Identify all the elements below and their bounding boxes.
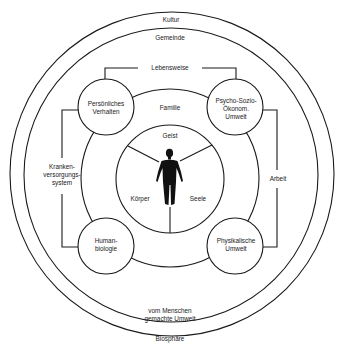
node-label-tl-1: Persönliches (88, 100, 125, 107)
connector-arbeit-top (263, 110, 277, 170)
node-label-br-1: Physikalische (217, 237, 256, 245)
connector-arbeit-bottom (263, 188, 277, 247)
label-gemeinde: Gemeinde (155, 34, 185, 41)
human-figure-icon (156, 149, 183, 205)
node-persoenliches-verhalten (78, 79, 134, 135)
label-arbeit: Arbeit (270, 175, 287, 182)
label-lebensweise: Lebensweise (151, 64, 189, 71)
label-kultur: Kultur (163, 16, 181, 23)
label-biosphaere: Biosphäre (156, 335, 185, 343)
label-geist: Geist (163, 132, 178, 139)
health-field-diagram: Kultur Gemeinde Familie vom Menschen gem… (0, 0, 338, 352)
node-label-tl-2: Verhalten (92, 108, 119, 115)
spoke-right (180, 145, 212, 161)
label-vom-menschen: vom Menschen (148, 307, 192, 314)
node-label-bl-2: biologie (95, 245, 117, 253)
spoke-left (128, 146, 159, 162)
node-label-tr-2: Ökonom. (223, 105, 249, 112)
label-familie: Familie (160, 104, 181, 111)
label-kranken-1: Kranken- (49, 163, 75, 170)
node-label-tr-3: Umwelt (225, 113, 247, 120)
label-koerper: Körper (130, 195, 150, 203)
label-kranken-3: system (52, 179, 72, 187)
node-label-tr-1: Psycho-Sozio- (215, 97, 256, 105)
connector-kranken-top (62, 110, 79, 158)
label-seele: Seele (190, 195, 207, 202)
node-label-br-2: Umwelt (225, 245, 247, 252)
label-gemachte-umwelt: gemachte Umwelt (144, 315, 195, 323)
node-label-bl-1: Human- (95, 237, 118, 244)
label-kranken-2: versorgungs- (43, 171, 80, 179)
connector-lebensweise-left (105, 68, 138, 80)
connector-lebensweise-right (202, 68, 236, 80)
connector-kranken-bottom (62, 194, 79, 247)
